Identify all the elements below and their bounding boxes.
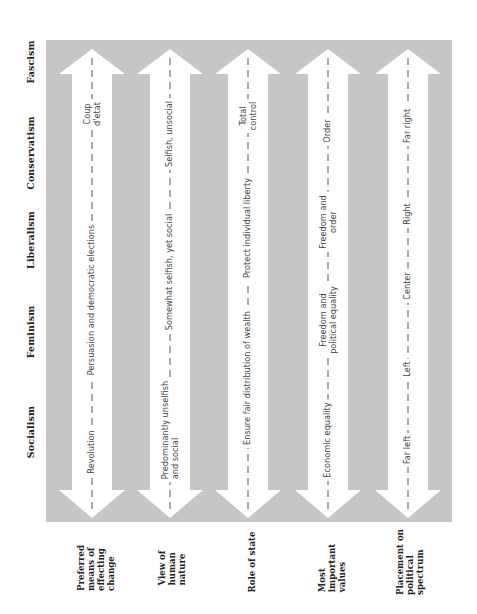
row-label-change: Preferred means of effecting change bbox=[76, 545, 116, 591]
row-label-state: Role of state bbox=[247, 532, 257, 593]
ideology-socialism: Socialism bbox=[25, 406, 36, 458]
ideology-liberalism: Liberalism bbox=[25, 211, 36, 269]
cell-center: Center bbox=[403, 269, 413, 303]
cell-coup-line2: d'etat bbox=[92, 102, 102, 126]
cell-coup: Coup d'etat bbox=[83, 99, 102, 129]
cell-total-control: Total control bbox=[239, 99, 258, 133]
row-label-nature: View of human nature bbox=[157, 550, 187, 585]
cell-protect-liberty: Protect individual liberty bbox=[243, 175, 253, 281]
cell-right: Right bbox=[403, 200, 413, 228]
cell-far-right: Far right bbox=[403, 106, 413, 146]
cell-freedom-political: Freedom and political equality bbox=[319, 283, 338, 357]
cell-persuasion: Persuasion and democratic elections bbox=[87, 222, 97, 378]
cell-freedom-political-line2: political equality bbox=[328, 286, 338, 354]
double-arrows bbox=[0, 0, 477, 614]
cell-somewhat-selfish: Somewhat selfish, yet social bbox=[165, 211, 175, 333]
cell-freedom-order-line2: order bbox=[328, 195, 338, 249]
cell-fair-distribution: Ensure fair distribution of wealth bbox=[243, 308, 253, 448]
row-label-values: Most important values bbox=[317, 544, 347, 592]
cell-unselfish-line2: and social bbox=[170, 381, 180, 479]
ideology-feminism: Feminism bbox=[25, 306, 36, 359]
cell-revolution: Revolution bbox=[87, 427, 97, 476]
cell-economic-equality: Economic equality bbox=[323, 399, 333, 480]
cell-selfish: Selfish, unsocial bbox=[165, 98, 175, 170]
cell-total-line2: control bbox=[248, 102, 258, 130]
cell-far-left: Far left bbox=[403, 433, 413, 467]
cell-order: Order bbox=[323, 116, 333, 145]
cell-freedom-order: Freedom and order bbox=[319, 192, 338, 252]
cell-left: Left bbox=[403, 358, 413, 379]
ideology-fascism: Fascism bbox=[25, 40, 36, 83]
row-label-spectrum: Placement on political spectrum bbox=[395, 529, 425, 595]
cell-unselfish: Predominantly unselfish and social bbox=[161, 378, 180, 482]
ideology-conservatism: Conservatism bbox=[25, 116, 36, 189]
